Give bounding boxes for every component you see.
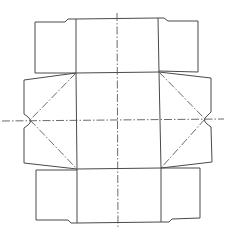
bottom-right-flap	[161, 168, 200, 222]
base-left-edge	[76, 73, 77, 169]
horizontal-centerline	[2, 119, 224, 121]
fold-diagonal-top-right	[159, 72, 205, 119]
bottom-left-flap	[36, 170, 77, 223]
base-bottom-edge	[77, 168, 161, 169]
fold-diagonal-bottom-left	[30, 120, 77, 169]
fold-diagonal-top-left	[30, 73, 76, 120]
top-section	[35, 18, 198, 73]
top-left-flap	[35, 19, 76, 73]
dieline-diagram	[0, 0, 237, 236]
top-right-flap	[158, 18, 198, 72]
vertical-centerline	[117, 13, 118, 228]
bottom-panel-edge	[77, 222, 161, 223]
top-panel-right-crease	[158, 18, 159, 72]
fold-diagonal-bottom-right	[161, 119, 205, 168]
